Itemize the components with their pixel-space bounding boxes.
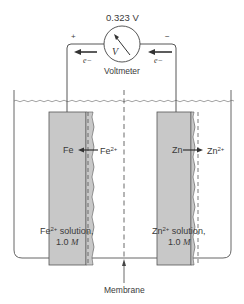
membrane-label: Membrane [104,286,145,295]
voltmeter-symbol: V [112,47,118,57]
zn-reaction-arrowhead-icon [197,148,203,153]
fe-electrode-label: Fe [63,146,74,155]
fe-solution-label: Fe2+ solution, [40,226,93,236]
electron-arrow-right-icon [148,49,155,55]
membrane-pointer-arrowhead-icon [122,259,126,266]
wire-right [140,44,176,112]
fe-ion-charge: 2+ [111,146,118,152]
zn-concentration: 1.0 M [168,238,191,247]
zn-ion-symbol: Zn [207,146,218,156]
fe-ion-symbol: Fe [100,146,111,156]
electron-label-right: e− [154,57,163,65]
zn-ion-charge: 2+ [218,146,225,152]
zn-ion-label: Zn2+ [207,146,224,156]
voltmeter-reading: 0.323 V [106,13,139,23]
fe-concentration: 1.0 M [56,238,79,247]
electron-arrow-left-icon [74,49,81,55]
positive-terminal: + [71,33,76,41]
zn-electrode-rough-edge [191,112,195,265]
zn-electrode-label: Zn [172,146,183,155]
wire-left [67,44,104,112]
fe-ion-label: Fe2+ [100,146,117,156]
voltmeter-label: Voltmeter [104,67,140,76]
negative-terminal: − [165,33,170,41]
zn-solution-label: Zn2+ solution, [152,226,205,236]
electron-label-left: e− [83,57,92,65]
fe-electrode-rough-edge [86,112,94,265]
